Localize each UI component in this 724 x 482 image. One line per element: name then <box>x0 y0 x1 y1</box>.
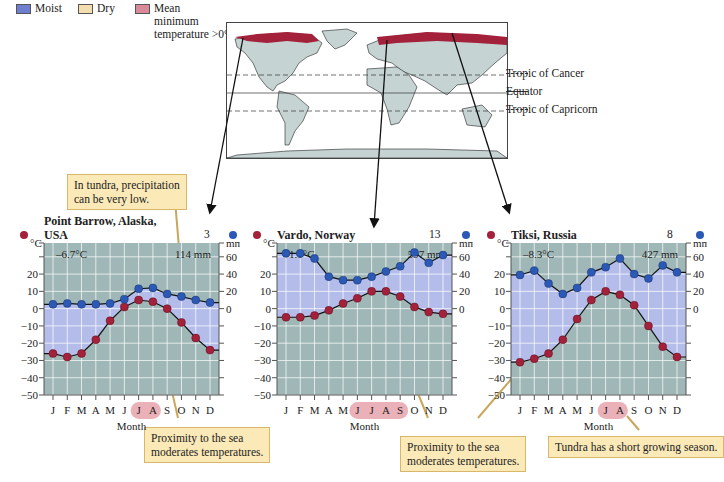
svg-text:F: F <box>64 404 70 416</box>
precipitation-legend-dot <box>696 231 704 239</box>
svg-text:60: 60 <box>693 251 705 263</box>
precipitation-point <box>49 300 57 308</box>
svg-text:−30: −30 <box>254 354 272 366</box>
mean-temperature: –8.3°C <box>522 248 554 260</box>
precipitation-point <box>92 300 100 308</box>
temperature-legend-dot <box>487 231 495 239</box>
svg-text:20: 20 <box>27 268 39 280</box>
svg-text:M: M <box>77 404 87 416</box>
svg-text:−20: −20 <box>488 337 506 349</box>
svg-text:N: N <box>192 404 200 416</box>
svg-text:0: 0 <box>459 303 465 315</box>
svg-text:0: 0 <box>266 303 272 315</box>
precipitation-point <box>410 249 418 257</box>
climate-chart: −50−40−30−20−10010206040200°Cmm1.1°C597 … <box>233 210 473 480</box>
svg-text:S: S <box>631 404 637 416</box>
precipitation-point <box>545 280 553 288</box>
svg-text:0: 0 <box>500 303 506 315</box>
svg-text:°C: °C <box>30 237 42 249</box>
temperature-point <box>368 287 376 295</box>
mean-temperature: –6.7°C <box>55 248 87 260</box>
svg-text:−30: −30 <box>488 354 506 366</box>
svg-text:−40: −40 <box>21 372 39 384</box>
climate-chart: −50−40−30−20−10010206040200°Cmm–8.3°C427… <box>467 210 707 480</box>
svg-text:J: J <box>51 404 56 416</box>
precipitation-point <box>530 267 538 275</box>
temperature-point <box>311 312 319 320</box>
precipitation-point <box>630 270 638 278</box>
svg-text:J: J <box>284 404 289 416</box>
svg-text:D: D <box>673 404 681 416</box>
precipitation-point <box>78 300 86 308</box>
svg-text:S: S <box>164 404 170 416</box>
precipitation-point <box>63 299 71 307</box>
svg-text:0: 0 <box>693 303 699 315</box>
temperature-point <box>439 310 447 318</box>
svg-text:−40: −40 <box>488 372 506 384</box>
svg-text:−10: −10 <box>254 320 272 332</box>
precipitation-point <box>120 295 128 303</box>
svg-text:−50: −50 <box>488 389 506 401</box>
precipitation-point <box>616 255 624 263</box>
temperature-point <box>602 287 610 295</box>
climate-chart: −50−40−30−20−10010206040200°Cmm–6.7°C114… <box>0 210 240 480</box>
svg-text:J: J <box>369 404 374 416</box>
temperature-point <box>325 306 333 314</box>
temperature-point <box>530 355 538 363</box>
svg-text:D: D <box>206 404 214 416</box>
svg-text:0: 0 <box>33 303 39 315</box>
svg-text:A: A <box>92 404 100 416</box>
precipitation-point <box>396 262 404 270</box>
svg-text:20: 20 <box>693 285 705 297</box>
temperature-point <box>644 322 652 330</box>
precipitation-point <box>644 274 652 282</box>
precipitation-point <box>206 299 214 307</box>
svg-text:40: 40 <box>693 268 705 280</box>
precipitation-point <box>659 261 667 269</box>
temperature-point <box>282 313 290 321</box>
svg-text:−10: −10 <box>21 320 39 332</box>
svg-text:A: A <box>325 404 333 416</box>
temperature-point <box>49 350 57 358</box>
svg-text:M: M <box>310 404 320 416</box>
svg-text:J: J <box>518 404 523 416</box>
temperature-point <box>559 336 567 344</box>
temperature-point <box>106 317 114 325</box>
temperature-point <box>149 298 157 306</box>
temperature-point <box>673 353 681 361</box>
precipitation-point <box>177 293 185 301</box>
svg-text:D: D <box>439 404 447 416</box>
precipitation-point <box>192 296 200 304</box>
svg-text:Month: Month <box>117 420 147 432</box>
svg-text:10: 10 <box>494 285 506 297</box>
svg-text:J: J <box>136 404 141 416</box>
precipitation-point <box>325 273 333 281</box>
precipitation-point <box>149 284 157 292</box>
temperature-point <box>163 305 171 313</box>
precipitation-point <box>106 299 114 307</box>
temperature-point <box>659 343 667 351</box>
svg-text:20: 20 <box>260 268 272 280</box>
temperature-point <box>587 296 595 304</box>
temperature-point <box>192 334 200 342</box>
temperature-point <box>296 313 304 321</box>
svg-text:10: 10 <box>27 285 39 297</box>
svg-text:0: 0 <box>226 303 232 315</box>
annual-precipitation: 427 mm <box>642 248 679 260</box>
svg-text:20: 20 <box>494 268 506 280</box>
temperature-point <box>516 358 524 366</box>
temperature-legend-dot <box>20 231 28 239</box>
svg-text:M: M <box>338 404 348 416</box>
svg-text:J: J <box>603 404 608 416</box>
svg-text:10: 10 <box>260 285 272 297</box>
precipitation-point <box>559 290 567 298</box>
annual-precipitation: 114 mm <box>175 248 211 260</box>
temperature-point <box>425 308 433 316</box>
precipitation-point <box>587 268 595 276</box>
precipitation-point <box>382 268 390 276</box>
svg-text:J: J <box>122 404 127 416</box>
temperature-point <box>78 350 86 358</box>
svg-text:−20: −20 <box>254 337 272 349</box>
temperature-point <box>177 318 185 326</box>
svg-text:A: A <box>616 404 624 416</box>
